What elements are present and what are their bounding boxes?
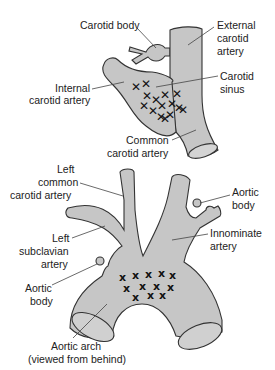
- label-external-carotid-3: artery: [217, 45, 245, 57]
- svg-text:x: x: [167, 281, 174, 294]
- label-left-common-carotid-3: carotid artery: [10, 189, 72, 201]
- label-aortic-arch-2: (viewed from behind): [28, 353, 126, 365]
- label-aortic-arch: Aortic arch: [51, 340, 101, 352]
- svg-text:x: x: [132, 291, 139, 304]
- label-internal-carotid-2: carotid artery: [29, 94, 91, 106]
- label-external-carotid: External: [217, 19, 256, 31]
- label-common-carotid: Common: [126, 134, 169, 146]
- svg-text:x: x: [158, 267, 165, 280]
- label-external-carotid-2: carotid: [217, 32, 249, 44]
- label-innominate-2: artery: [210, 240, 238, 252]
- svg-text:✕: ✕: [178, 103, 188, 117]
- label-left-subclavian-2: subclavian: [19, 245, 69, 257]
- leader-left-subclavian: [72, 226, 105, 238]
- svg-text:x: x: [159, 289, 166, 302]
- label-aortic-body-left: Aortic: [25, 282, 52, 294]
- label-left-common-carotid-2: common: [38, 176, 78, 188]
- svg-text:x: x: [139, 280, 146, 293]
- label-aortic-body-right-2: body: [232, 199, 256, 211]
- label-aortic-body-left-2: body: [30, 295, 54, 307]
- label-left-subclavian: Left: [52, 232, 70, 244]
- aortic-arch-vessel: [66, 169, 222, 338]
- carotid-bifurcation-figure: ✕✕ ✕✕ ✕✕ ✕✕ ✕✕ ✕✕ ✕✕ ✕ Carotid body Exte…: [29, 19, 256, 161]
- svg-text:x: x: [123, 282, 130, 295]
- label-carotid-body: Carotid body: [80, 19, 140, 31]
- carotid-body-vessel: [129, 45, 170, 64]
- carotid-aortic-baroreceptor-diagram: ✕✕ ✕✕ ✕✕ ✕✕ ✕✕ ✕✕ ✕✕ ✕ Carotid body Exte…: [0, 0, 275, 370]
- aortic-arch-figure: xx xx x xx xx xx x Left common carotid a…: [10, 163, 262, 365]
- aortic-body-right-bulb: [193, 199, 201, 207]
- svg-text:x: x: [147, 289, 154, 302]
- label-innominate: Innominate: [210, 227, 262, 239]
- aortic-body-left-bulb: [96, 257, 104, 265]
- leader-carotid-body: [137, 28, 156, 48]
- label-left-common-carotid: Left: [57, 163, 75, 175]
- leader-aortic-body-right: [200, 195, 230, 203]
- svg-text:✕: ✕: [160, 112, 170, 126]
- label-left-subclavian-3: artery: [41, 258, 69, 270]
- label-common-carotid-2: carotid artery: [107, 147, 169, 159]
- leader-left-common-carotid: [80, 183, 123, 196]
- label-carotid-sinus-2: sinus: [220, 83, 245, 95]
- svg-text:✕: ✕: [131, 80, 141, 94]
- label-internal-carotid: Internal: [55, 82, 90, 94]
- label-aortic-body-right: Aortic: [232, 186, 259, 198]
- label-carotid-sinus: Carotid: [220, 70, 254, 82]
